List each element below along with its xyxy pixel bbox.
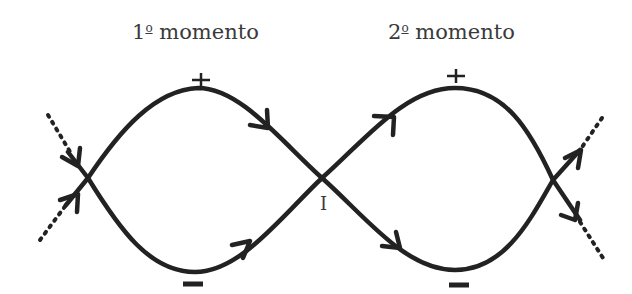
intersection-label: I xyxy=(320,193,327,214)
dotted-lead-top-left xyxy=(48,115,72,155)
figure-eight-diagram xyxy=(0,0,632,294)
dotted-lead-top-right xyxy=(580,118,602,150)
curve-lower-first-upper-second xyxy=(66,88,580,272)
dotted-lead-bottom-left xyxy=(40,205,66,240)
plus-sign-first xyxy=(192,73,210,87)
dotted-lead-bottom-right xyxy=(580,222,603,258)
plus-sign-second xyxy=(447,69,465,83)
